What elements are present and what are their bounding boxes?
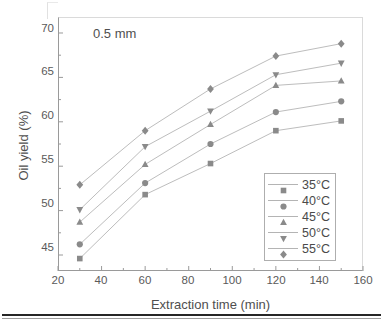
data-point-circle-marker — [338, 98, 344, 104]
x-tick-label: 140 — [299, 275, 339, 287]
legend-marker-triangle-down-icon — [268, 226, 298, 240]
x-tick-label: 100 — [212, 275, 252, 287]
legend-marker-diamond-icon — [268, 242, 298, 256]
legend-label: 45°C — [298, 210, 330, 224]
data-point-triangle-up-marker — [338, 77, 345, 83]
x-tick-label: 160 — [343, 275, 383, 287]
page-divider-rule — [2, 314, 381, 316]
data-point-circle-marker — [207, 141, 213, 147]
data-point-circle-marker — [142, 180, 148, 186]
data-point-triangle-down-marker — [272, 72, 279, 78]
chart-legend[interactable]: 35°C 40°C 45°C 50°C 55°C — [264, 173, 336, 261]
data-point-triangle-up-marker — [207, 121, 214, 127]
x-axis-tick-labels: 20 40 60 80 100 120 140 160 — [0, 275, 383, 291]
legend-marker-square-icon — [268, 178, 298, 192]
legend-label: 55°C — [298, 242, 330, 256]
legend-label: 35°C — [298, 178, 330, 192]
x-tick-label: 80 — [168, 275, 208, 287]
legend-marker-circle-icon — [268, 194, 298, 208]
data-point-square-marker — [77, 256, 83, 262]
data-point-triangle-down-marker — [76, 207, 83, 213]
legend-label: 40°C — [298, 194, 330, 208]
data-point-diamond-marker — [338, 40, 345, 48]
legend-item[interactable]: 50°C — [268, 225, 330, 241]
data-point-circle-marker — [273, 109, 279, 115]
legend-label: 50°C — [298, 226, 330, 240]
data-point-square-marker — [142, 192, 148, 198]
data-point-diamond-marker — [76, 181, 83, 189]
x-tick-label: 40 — [81, 275, 121, 287]
legend-item[interactable]: 40°C — [268, 193, 330, 209]
legend-item[interactable]: 55°C — [268, 241, 330, 257]
legend-item[interactable]: 35°C — [268, 177, 330, 193]
legend-item[interactable]: 45°C — [268, 209, 330, 225]
data-point-square-marker — [273, 128, 279, 134]
data-point-triangle-down-marker — [207, 109, 214, 115]
x-tick-label: 60 — [125, 275, 165, 287]
data-point-diamond-marker — [142, 127, 149, 135]
data-point-square-marker — [208, 161, 214, 167]
page-divider-rule-secondary — [2, 318, 381, 319]
x-tick-label: 120 — [256, 275, 296, 287]
data-point-circle-marker — [77, 241, 83, 247]
legend-marker-triangle-up-icon — [268, 210, 298, 224]
data-point-diamond-marker — [207, 85, 214, 93]
data-point-diamond-marker — [272, 52, 279, 60]
data-point-triangle-up-marker — [142, 161, 149, 167]
chart-figure: Oil yield (%) 70 65 60 55 50 45 0.5 mm 2… — [0, 0, 383, 324]
x-tick-label: 20 — [38, 275, 78, 287]
data-point-square-marker — [338, 118, 344, 124]
x-axis-title: Extraction time (min) — [58, 297, 363, 312]
